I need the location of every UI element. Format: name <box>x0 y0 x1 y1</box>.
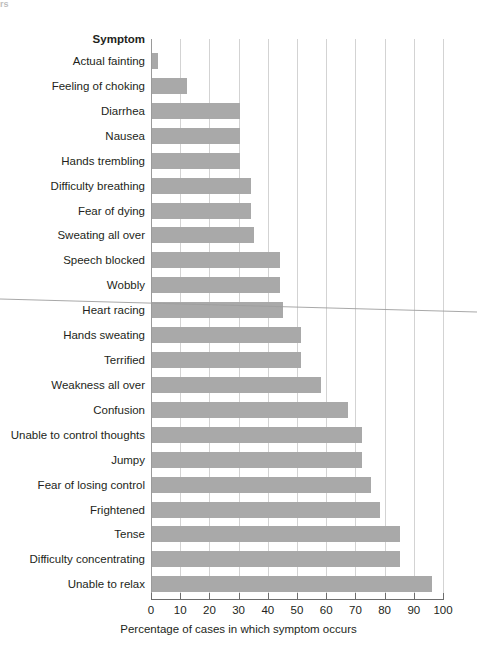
category-label: Difficulty concentrating <box>0 553 145 565</box>
bar <box>152 526 400 542</box>
bar <box>152 78 187 94</box>
bar <box>152 277 280 293</box>
category-label: Tense <box>0 528 145 540</box>
category-label-column: Symptom Actual faintingFeeling of chokin… <box>0 0 145 652</box>
category-label: Nausea <box>0 130 145 142</box>
category-label: Heart racing <box>0 304 145 316</box>
category-label: Feeling of choking <box>0 80 145 92</box>
category-label: Speech blocked <box>0 254 145 266</box>
x-tick-40 <box>268 593 269 600</box>
category-label: Weakness all over <box>0 379 145 391</box>
x-tick-50 <box>297 593 298 600</box>
bar <box>152 227 254 243</box>
x-tick-label-100: 100 <box>423 604 463 617</box>
category-label: Frightened <box>0 504 145 516</box>
x-tick-80 <box>385 593 386 600</box>
x-tick-90 <box>414 593 415 600</box>
x-tick-10 <box>180 593 181 600</box>
category-label: Fear of losing control <box>0 479 145 491</box>
category-axis-header: Symptom <box>0 33 145 45</box>
gridline-80 <box>385 39 386 599</box>
bar <box>152 103 240 119</box>
x-tick-30 <box>239 593 240 600</box>
category-label: Actual fainting <box>0 55 145 67</box>
x-tick-100 <box>443 593 444 600</box>
category-label: Wobbly <box>0 279 145 291</box>
bar <box>152 377 321 393</box>
category-label: Hands trembling <box>0 155 145 167</box>
bar <box>152 53 158 69</box>
bar <box>152 178 251 194</box>
bar <box>152 128 240 144</box>
bar <box>152 352 301 368</box>
bar <box>152 502 380 518</box>
bar <box>152 302 283 318</box>
bar <box>152 252 280 268</box>
category-label: Confusion <box>0 404 145 416</box>
symptom-percentage-bar-chart: Symptom Actual faintingFeeling of chokin… <box>0 0 477 652</box>
gridline-90 <box>414 39 415 599</box>
bar <box>152 551 400 567</box>
x-tick-20 <box>209 593 210 600</box>
category-label: Diarrhea <box>0 105 145 117</box>
x-tick-0 <box>151 593 152 600</box>
bar <box>152 203 251 219</box>
bar <box>152 452 362 468</box>
bar <box>152 153 240 169</box>
bar <box>152 427 362 443</box>
bar <box>152 477 371 493</box>
bar <box>152 576 432 592</box>
category-label: Fear of dying <box>0 205 145 217</box>
x-tick-60 <box>326 593 327 600</box>
category-label: Unable to relax <box>0 578 145 590</box>
category-label: Unable to control thoughts <box>0 429 145 441</box>
bar <box>152 402 348 418</box>
category-label: Difficulty breathing <box>0 180 145 192</box>
category-label: Jumpy <box>0 454 145 466</box>
x-axis-title: Percentage of cases in which symptom occ… <box>0 623 477 636</box>
gridline-100 <box>443 39 444 599</box>
category-label: Sweating all over <box>0 229 145 241</box>
category-label: Terrified <box>0 354 145 366</box>
plot-area <box>151 39 443 599</box>
category-label: Hands sweating <box>0 329 145 341</box>
bar <box>152 327 301 343</box>
x-tick-70 <box>355 593 356 600</box>
